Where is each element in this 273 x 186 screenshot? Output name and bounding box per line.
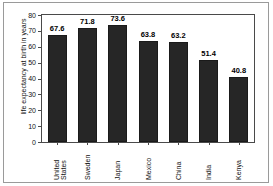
bar-value-label: 51.4 — [189, 50, 229, 58]
bar-slot — [78, 15, 97, 142]
y-tick-label: 70 — [14, 27, 36, 34]
x-category-label: Sweden — [84, 155, 91, 180]
x-category-label-line: China — [175, 162, 182, 180]
x-category-label: Mexico — [145, 158, 152, 180]
x-tick-mark — [178, 142, 179, 145]
x-category-label: UnitedStates — [53, 160, 67, 180]
bar[interactable] — [229, 77, 248, 142]
x-tick-mark — [209, 142, 210, 145]
bar-slot — [48, 15, 67, 142]
y-tick-label: 50 — [14, 59, 36, 66]
bar[interactable] — [199, 60, 218, 142]
x-category-label: China — [175, 162, 182, 180]
x-category-label-line: Kenya — [235, 160, 242, 180]
x-category-label-line: Japan — [114, 161, 121, 180]
bar[interactable] — [139, 41, 158, 142]
bar-slot — [229, 15, 248, 142]
x-tick-mark — [57, 142, 58, 145]
x-category-label-line: Sweden — [84, 155, 91, 180]
y-tick-label: 30 — [14, 91, 36, 98]
x-category-label-line: Mexico — [145, 158, 152, 180]
bar-value-label: 40.8 — [219, 67, 259, 75]
x-category-label-line: States — [60, 160, 67, 180]
y-tick-label: 80 — [14, 12, 36, 19]
x-category-label: Japan — [114, 161, 121, 180]
y-tick-label: 20 — [14, 107, 36, 114]
bar[interactable] — [108, 25, 127, 142]
y-tick-label: 10 — [14, 123, 36, 130]
x-category-label-line: India — [205, 165, 212, 180]
bar[interactable] — [48, 35, 67, 142]
y-axis-title: life expectancy at birth in years — [20, 0, 27, 137]
x-tick-mark — [118, 142, 119, 145]
x-tick-mark — [148, 142, 149, 145]
x-tick-mark — [239, 142, 240, 145]
bar-slot — [199, 15, 218, 142]
bar[interactable] — [169, 42, 188, 142]
x-category-label: India — [205, 165, 212, 180]
x-category-label: Kenya — [235, 160, 242, 180]
y-tick-label: 0 — [14, 139, 36, 146]
bar-value-label: 73.6 — [98, 15, 138, 23]
bar-value-label: 63.2 — [158, 32, 198, 40]
x-tick-mark — [87, 142, 88, 145]
y-tick-label: 40 — [14, 75, 36, 82]
y-tick-label: 60 — [14, 43, 36, 50]
bar-chart-figure: life expectancy at birth in years 010203… — [0, 0, 273, 186]
bar-slot — [108, 15, 127, 142]
bar[interactable] — [78, 28, 97, 142]
